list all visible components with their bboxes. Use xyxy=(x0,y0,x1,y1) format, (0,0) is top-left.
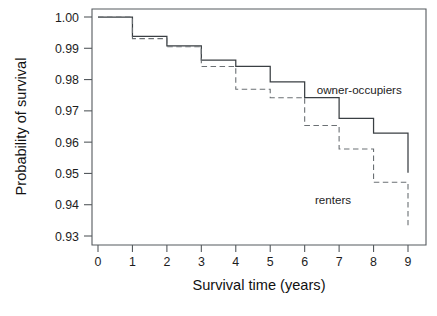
y-tick-label: 0.99 xyxy=(55,42,79,56)
x-tick-label: 8 xyxy=(370,255,377,269)
y-axis-title: Probability of survival xyxy=(13,58,29,196)
chart-canvas: 0123456789 0.930.940.950.960.970.980.991… xyxy=(0,0,437,316)
x-tick-label: 5 xyxy=(267,255,274,269)
x-tick-label: 6 xyxy=(301,255,308,269)
series-curve-renters xyxy=(98,17,408,225)
y-tick-label: 0.98 xyxy=(55,73,79,87)
x-tick-label: 9 xyxy=(405,255,412,269)
x-axis-ticks: 0123456789 xyxy=(95,245,412,269)
plot-border xyxy=(92,9,426,245)
x-tick-label: 2 xyxy=(163,255,170,269)
x-tick-label: 3 xyxy=(198,255,205,269)
y-tick-label: 0.95 xyxy=(55,167,79,181)
y-tick-label: 0.97 xyxy=(55,104,79,118)
figure-caption xyxy=(6,312,326,316)
y-axis-ticks: 0.930.940.950.960.970.980.991.00 xyxy=(55,11,92,244)
annotation-renters: renters xyxy=(315,193,351,206)
series-annotations: owner-occupiersrenters xyxy=(315,83,402,206)
series-curves xyxy=(98,17,408,225)
y-tick-label: 0.94 xyxy=(55,198,79,212)
annotation-owner-occupiers: owner-occupiers xyxy=(317,83,402,96)
survival-curve-chart: 0123456789 0.930.940.950.960.970.980.991… xyxy=(0,0,437,316)
x-tick-label: 1 xyxy=(129,255,136,269)
x-axis-title: Survival time (years) xyxy=(193,277,326,293)
x-tick-label: 4 xyxy=(232,255,239,269)
y-tick-label: 1.00 xyxy=(55,11,79,25)
x-tick-label: 0 xyxy=(95,255,102,269)
y-tick-label: 0.96 xyxy=(55,136,79,150)
y-tick-label: 0.93 xyxy=(55,230,79,244)
x-tick-label: 7 xyxy=(336,255,343,269)
plot-frame xyxy=(92,9,426,245)
